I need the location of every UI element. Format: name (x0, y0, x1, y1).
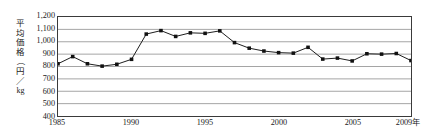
data-point-marker: 1987: 822 (86, 62, 90, 66)
data-point-marker: 2009: 848 (409, 59, 411, 63)
x-tick-label: 2005 (345, 119, 361, 127)
data-point-marker: 2003: 860 (321, 57, 325, 61)
data-point-marker: 1996: 1088 (218, 29, 222, 33)
data-point-marker: 1998: 948 (247, 46, 251, 50)
data-point-marker: 1991: 1062 (144, 32, 148, 36)
data-point-marker: 1994: 1072 (189, 31, 193, 35)
y-tick-label: 500 (31, 100, 55, 108)
data-point-marker: 1995: 1068 (203, 32, 207, 36)
y-axis-title: 平 均 価 格 （ 円 ／ kg (13, 19, 28, 96)
y-tick-label: 900 (31, 50, 55, 58)
x-axis-tick-labels: 198519901995200020052009年 (0, 119, 425, 133)
data-point-marker: 1990: 858 (130, 58, 134, 62)
y-axis-title-char-4: （ (16, 58, 26, 67)
y-tick-label: 700 (31, 75, 55, 83)
y-axis-title-char-7: kg (17, 86, 25, 96)
plot-area: 1985: 8221986: 8801987: 8221988: 8031989… (57, 16, 412, 117)
data-point-marker: 2007: 900 (380, 52, 384, 56)
x-tick-label: 2009年 (396, 119, 420, 127)
data-point-marker: 1985: 822 (58, 62, 60, 66)
x-tick-label: 1990 (123, 119, 139, 127)
data-point-marker: 2008: 905 (395, 52, 399, 56)
data-point-marker: 1988: 803 (100, 64, 104, 68)
y-axis-title-char-6: ／ (16, 77, 25, 87)
data-point-marker: 2001: 908 (292, 51, 296, 55)
series-line (58, 31, 411, 67)
data-point-marker: 1992: 1090 (159, 29, 163, 33)
y-axis-title-char-3: 格 (16, 48, 25, 58)
data-point-marker: 1997: 993 (233, 41, 237, 45)
y-tick-label: 1,100 (31, 25, 55, 33)
y-tick-label: 800 (31, 62, 55, 70)
data-point-marker: 2006: 903 (365, 52, 369, 56)
data-point-marker: 2005: 845 (350, 59, 354, 63)
data-point-marker: 2000: 912 (277, 51, 281, 55)
y-tick-label: 1,000 (31, 37, 55, 45)
data-point-marker: 1989: 818 (115, 63, 119, 67)
x-tick-label: 1985 (49, 119, 65, 127)
average-price-line-chart: 平 均 価 格 （ 円 ／ kg 1,2001,1001,00090080070… (0, 0, 425, 138)
data-point-marker: 2002: 955 (306, 46, 310, 50)
price-series: 1985: 8221986: 8801987: 8221988: 8031989… (58, 17, 411, 116)
y-tick-label: 1,200 (31, 12, 55, 20)
x-tick-label: 2000 (271, 119, 287, 127)
data-point-marker: 2004: 868 (336, 56, 340, 60)
y-tick-label: 600 (31, 88, 55, 96)
data-point-marker: 1986: 880 (71, 55, 75, 59)
x-tick-label: 1995 (197, 119, 213, 127)
data-point-marker: 1993: 1043 (174, 35, 178, 39)
data-point-marker: 1999: 925 (262, 49, 266, 53)
